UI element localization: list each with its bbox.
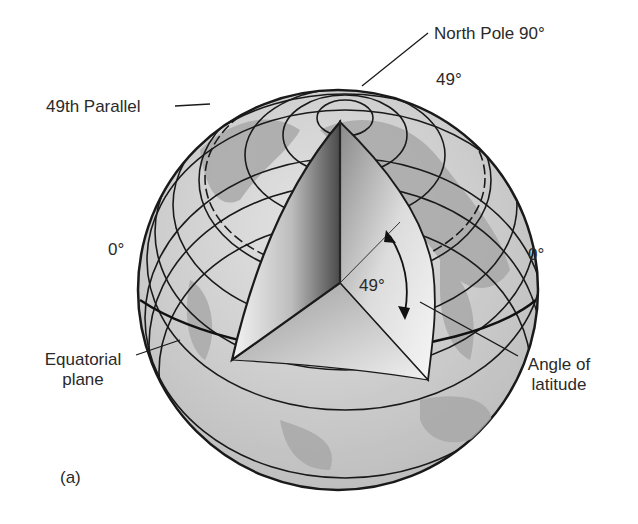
north-pole-label: North Pole 90° [434,24,545,44]
parallel-leader [175,104,210,106]
angle-of-latitude-label: Angle of latitude [514,355,604,395]
angle-value-label: 49° [359,276,385,296]
latitude-49-top-label: 49° [436,70,462,90]
north-pole-leader [362,33,428,86]
latitude-diagram: North Pole 90° 49° 49th Parallel 0° 0° 4… [0,0,638,524]
equatorial-plane-label: Equatorial plane [28,350,138,390]
panel-label: (a) [60,468,81,488]
49th-parallel-label: 49th Parallel [46,97,141,117]
equator-left-label: 0° [108,240,124,260]
equator-right-label: 0° [528,245,544,265]
